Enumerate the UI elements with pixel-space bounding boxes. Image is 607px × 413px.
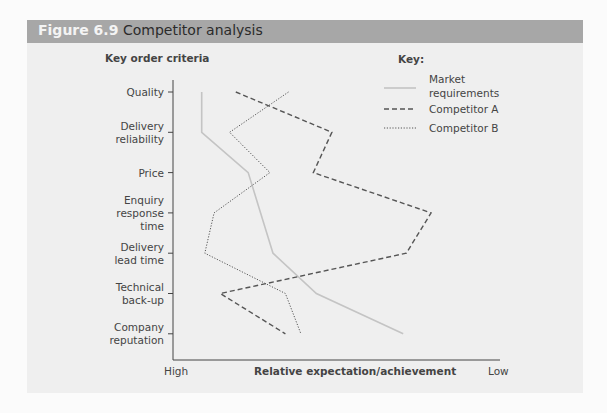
legend-title: Key: — [398, 53, 424, 65]
legend-label: requirements — [429, 87, 499, 99]
y-tick-label: reputation — [109, 334, 164, 346]
series-line-market-requirements — [202, 92, 404, 334]
y-tick-label: reliability — [115, 133, 164, 145]
y-tick-label: time — [140, 220, 164, 232]
legend-label: Competitor A — [429, 103, 499, 115]
series-line-competitor-b — [205, 92, 301, 334]
legend-label: Competitor B — [429, 122, 499, 134]
y-tick-label: lead time — [114, 254, 164, 266]
y-tick-label: response — [116, 207, 164, 219]
x-axis-high-label: High — [164, 365, 188, 377]
figure-panel: Figure 6.9 Competitor analysis Key order… — [27, 20, 583, 393]
legend-label: Market — [429, 73, 465, 85]
y-tick-label: Price — [138, 167, 164, 179]
x-axis-low-label: Low — [488, 365, 509, 377]
y-tick-label: Quality — [126, 86, 164, 98]
y-tick-label: Company — [114, 321, 164, 333]
y-tick-label: Delivery — [120, 120, 164, 132]
y-tick-label: Technical — [115, 281, 164, 293]
y-tick-label: Delivery — [120, 241, 164, 253]
chart-area: Key order criteriaQualityDeliveryreliabi… — [27, 20, 583, 393]
y-tick-label: back-up — [122, 294, 164, 306]
x-axis-title: Relative expectation/achievement — [254, 365, 456, 377]
y-axis-title: Key order criteria — [105, 52, 209, 64]
y-tick-label: Enquiry — [124, 194, 164, 206]
